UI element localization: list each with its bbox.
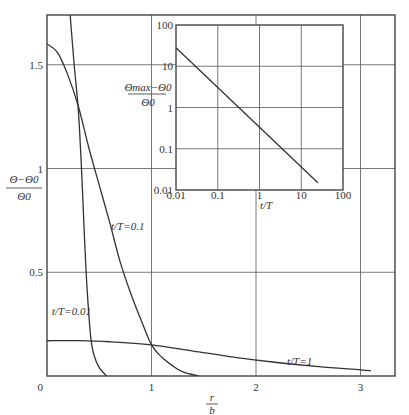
chart: 1230.511.50 0.010.010.10.1111010100100 Θ… [0, 0, 409, 415]
main-x-label-numerator: r [210, 391, 215, 403]
main-origin-label: 0 [38, 381, 44, 393]
main-x-tick-label: 2 [253, 381, 259, 393]
main-y-label-denominator: Θ0 [17, 190, 31, 202]
main-y-tick-label: 1.5 [29, 59, 43, 71]
inset-x-tick-label: 100 [335, 189, 352, 201]
inset-y-tick-label: 1 [168, 102, 174, 114]
inset-y-label-denominator: Θ0 [141, 96, 155, 108]
main-x-label-denominator: b [209, 404, 215, 415]
main-y-label-numerator: Θ−Θ0 [10, 173, 39, 185]
series-line-t-T-0.01 [70, 13, 107, 376]
main-y-axis-label: Θ−Θ0 Θ0 [6, 173, 42, 202]
main-x-tick-label: 1 [149, 381, 155, 393]
main-y-tick-label: 0.5 [29, 266, 43, 278]
inset-y-tick-label: 0.1 [159, 143, 173, 155]
curve-label-t-T-0.1: t/T=0.1 [111, 220, 144, 232]
curve-label-t-T-0.01: t/T=0.01 [52, 305, 91, 317]
inset-y-label-numerator: Θmax−Θ0 [124, 81, 172, 93]
main-x-tick-label: 3 [358, 381, 364, 393]
main-x-axis-label: r b [206, 391, 218, 415]
inset-y-tick-label: 10 [162, 60, 174, 72]
inset-x-tick-label: 10 [296, 189, 308, 201]
inset-x-axis-label: t/T [260, 199, 273, 211]
inset-y-tick-label: 100 [157, 19, 174, 31]
curve-label-t-T-1: t/T=1 [287, 355, 312, 367]
series-line-t-T-1 [47, 341, 371, 371]
inset-y-axis-label: Θmax−Θ0 Θ0 [124, 81, 172, 108]
inset-y-tick-label: 0.01 [154, 184, 173, 196]
inset-x-tick-label: 0.1 [211, 189, 225, 201]
